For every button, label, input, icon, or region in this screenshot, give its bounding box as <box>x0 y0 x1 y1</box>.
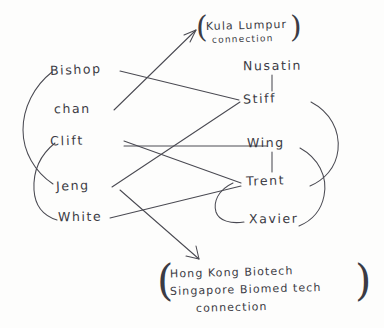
bracket-left-lower <box>34 143 57 220</box>
hongkong-close-paren: ) <box>355 260 371 302</box>
node-nusatin[interactable]: Nusatin <box>243 58 302 74</box>
edge-jeng-stiff <box>112 102 240 187</box>
edge-white-hongkong <box>120 190 199 259</box>
bracket-left-upper <box>23 72 53 184</box>
node-white[interactable]: White <box>58 209 103 224</box>
kuala-lumpur-line2: connection <box>212 33 274 45</box>
diagram-canvas: Bishop chan Clift Jeng White Nusatin Sti… <box>0 0 384 328</box>
edge-clift-trent <box>124 141 241 183</box>
edge-chan-kualalumpur <box>114 30 196 110</box>
node-stiff[interactable]: Stiff <box>243 90 277 106</box>
node-jeng[interactable]: Jeng <box>56 177 90 193</box>
node-chan[interactable]: chan <box>54 101 91 116</box>
kuala-lumpur-close-paren: ) <box>290 12 302 42</box>
node-wing[interactable]: Wing <box>247 135 285 150</box>
bracket-right-lower <box>299 148 325 226</box>
node-clift[interactable]: Clift <box>50 132 85 148</box>
node-xavier[interactable]: Xavier <box>249 211 299 227</box>
hongkong-line3: connection <box>196 300 268 315</box>
edge-bishop-stiff <box>120 71 239 100</box>
kuala-lumpur-line1: Kula Lumpur <box>206 18 287 33</box>
node-trent[interactable]: Trent <box>246 172 286 188</box>
bracket-right-upper <box>310 102 338 186</box>
node-bishop[interactable]: Bishop <box>50 61 102 78</box>
